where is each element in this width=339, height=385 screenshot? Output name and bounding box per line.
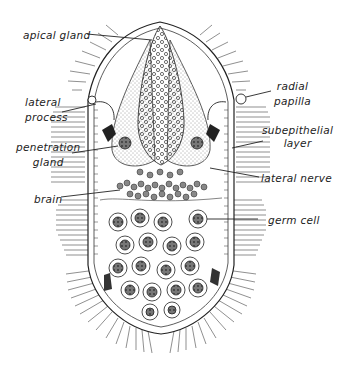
label-radial-papilla-line1: radial [274, 80, 311, 92]
label-subepithelial-layer: subepithelial layer [262, 124, 333, 149]
label-radial-papilla-line2: papilla [274, 95, 311, 107]
label-penetration-gland: penetration gland [16, 141, 81, 168]
label-lateral-process-line2: process [25, 111, 68, 123]
label-lateral-process: lateral process [25, 96, 68, 123]
label-brain: brain [34, 193, 63, 205]
label-lateral-process-line1: lateral [25, 96, 68, 108]
label-lateral-nerve: lateral nerve [261, 172, 332, 184]
label-subepithelial-layer-line2: layer [262, 137, 333, 149]
label-radial-papilla: radial papilla [274, 80, 311, 107]
label-penetration-gland-line1: penetration [16, 141, 81, 153]
diagram-figure: apical gland lateral process penetration… [0, 0, 339, 385]
label-apical-gland: apical gland [23, 29, 90, 41]
label-germ-cell: germ cell [268, 214, 320, 226]
label-subepithelial-layer-line1: subepithelial [262, 124, 333, 136]
label-penetration-gland-line2: gland [16, 156, 81, 168]
